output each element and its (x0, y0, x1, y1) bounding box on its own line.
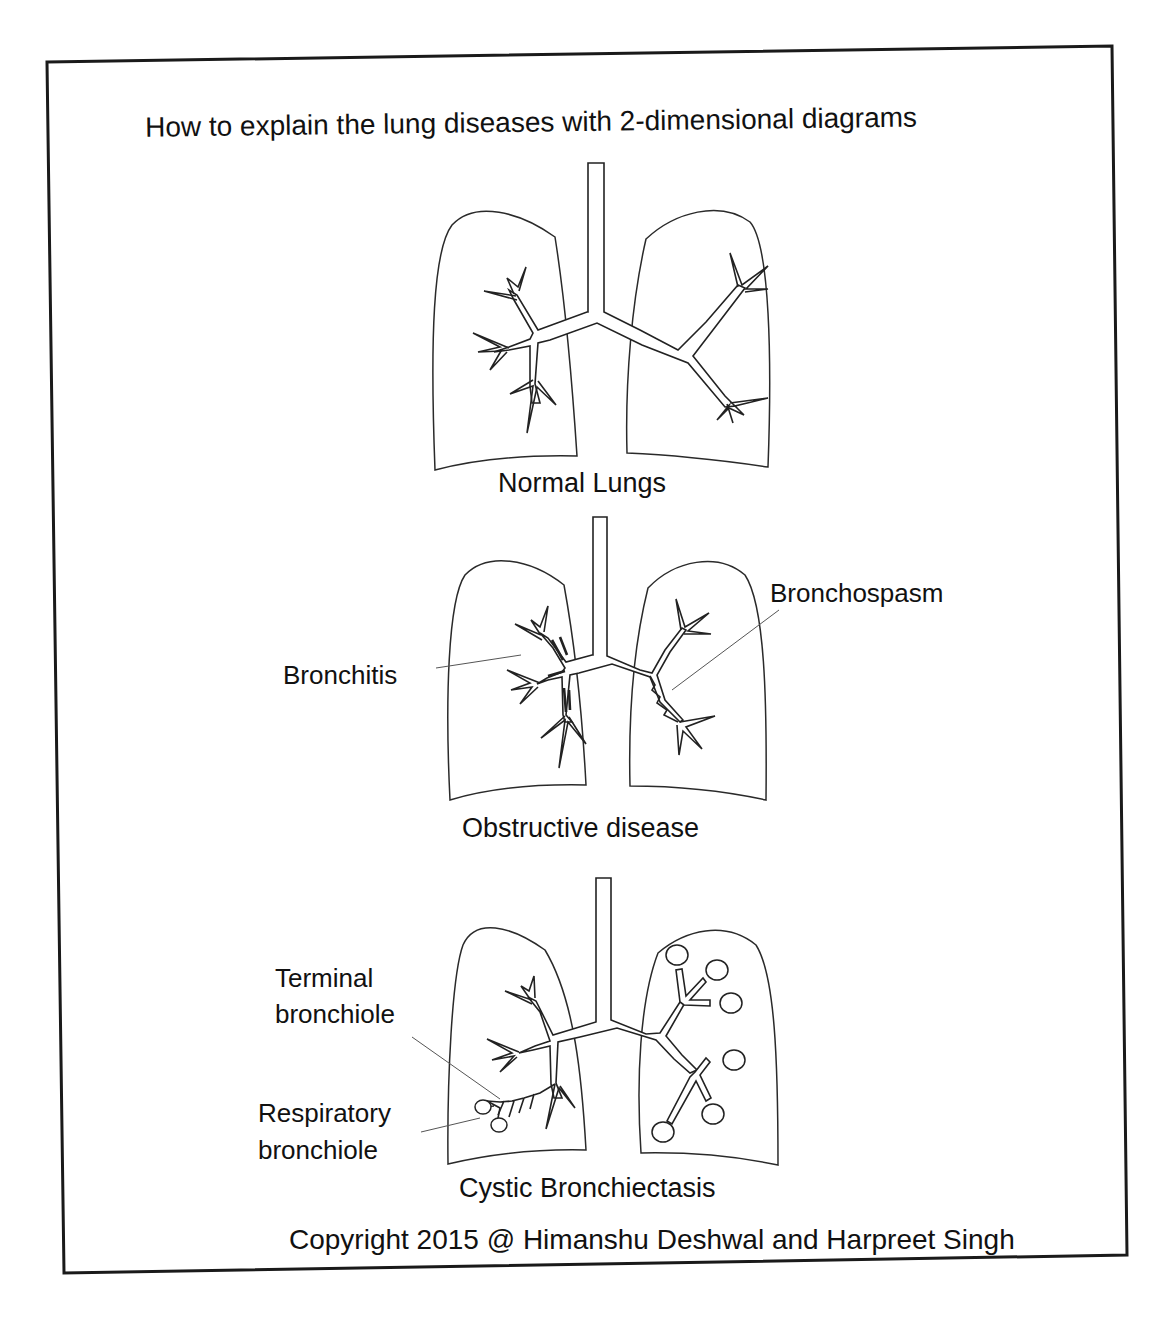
cyst (666, 945, 688, 965)
lung-disease-diagram: How to explain the lung diseases with 2-… (0, 0, 1171, 1325)
label-bronchitis: Bronchitis (283, 660, 397, 690)
label-respiratory-bronchiole-line2: bronchiole (258, 1135, 378, 1165)
cyst (702, 1104, 724, 1124)
panel-obstructive-disease: Bronchitis Bronchospasm Obstructive dise… (283, 517, 943, 843)
panel-normal-lungs: Normal Lungs (433, 163, 770, 498)
diagram-title: How to explain the lung diseases with 2-… (145, 102, 917, 143)
cystic-left-lung (448, 928, 586, 1164)
cyst (706, 960, 728, 980)
label-bronchospasm: Bronchospasm (770, 578, 943, 608)
label-terminal-bronchiole-line1: Terminal (275, 963, 373, 993)
cyst (723, 1050, 745, 1070)
label-respiratory-bronchiole-line1: Respiratory (258, 1098, 391, 1128)
caption-normal-lungs: Normal Lungs (498, 468, 666, 498)
caption-cystic-bronchiectasis: Cystic Bronchiectasis (459, 1173, 716, 1203)
label-terminal-bronchiole-line2: bronchiole (275, 999, 395, 1029)
respiratory-alveolus (491, 1118, 507, 1132)
obstructive-right-lung (630, 562, 767, 800)
respiratory-alveolus (475, 1100, 491, 1114)
cyst (652, 1122, 674, 1142)
normal-left-lung (433, 211, 577, 470)
caption-obstructive-disease: Obstructive disease (462, 813, 699, 843)
cyst (720, 993, 742, 1013)
copyright-notice: Copyright 2015 @ Himanshu Deshwal and Ha… (289, 1224, 1015, 1255)
panel-cystic-bronchiectasis: Terminal bronchiole Respiratory bronchio… (258, 878, 778, 1203)
